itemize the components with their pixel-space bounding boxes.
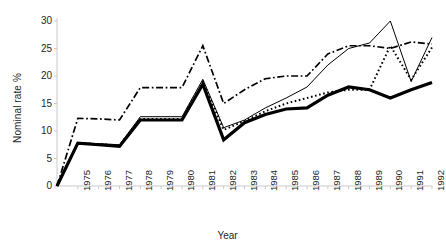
x-tick-label: 1979 [165, 170, 175, 191]
series-thin-solid [57, 21, 432, 186]
x-tick-label: 1987 [332, 170, 342, 191]
x-tick-label: 1990 [394, 170, 404, 191]
x-tick-label: 1986 [311, 170, 321, 191]
x-tick-label: 1976 [103, 170, 113, 191]
series-dash-dot [57, 42, 432, 186]
x-tick-label: 1977 [124, 170, 134, 191]
data-series-layer [57, 21, 432, 186]
x-tick-label: 1989 [374, 170, 384, 191]
x-tick-label: 1988 [353, 170, 363, 191]
x-axis-label: Year [0, 230, 439, 241]
x-tick-label: 1980 [186, 170, 196, 191]
x-tick-label: 1982 [228, 170, 238, 191]
axis-spines [57, 18, 432, 186]
x-tick-label: 1981 [207, 170, 217, 191]
x-tick-label: 1978 [144, 170, 154, 191]
x-tick-label: 1984 [269, 170, 279, 191]
series-dotted [57, 46, 432, 186]
x-tick-label: 1985 [290, 170, 300, 191]
x-tick-label: 1991 [415, 170, 425, 191]
x-tick-label: 1975 [82, 170, 92, 191]
x-tick-label: 1992 [436, 170, 446, 191]
x-tick-label: 1983 [249, 170, 259, 191]
